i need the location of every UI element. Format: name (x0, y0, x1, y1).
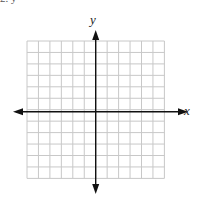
y-axis-arrow-up-icon (92, 30, 99, 40)
x-axis-label: x (184, 103, 190, 119)
x-axis-arrow-left-icon (13, 108, 23, 115)
y-axis-arrow-down-icon (92, 184, 99, 194)
y-axis-label: y (90, 12, 96, 28)
coordinate-plane (0, 0, 198, 204)
